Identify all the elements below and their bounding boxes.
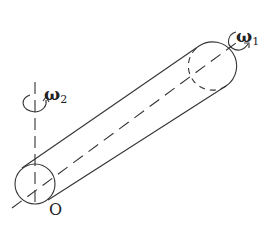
omega1-label: ω1 [236, 28, 259, 47]
cylinder-bottom-edge [48, 86, 226, 200]
cylinder-diagram [0, 0, 274, 228]
top-end-circle-visible [199, 42, 237, 86]
origin-label: O [49, 202, 62, 218]
cylinder-top-edge [22, 46, 199, 168]
cylinder-axis [12, 40, 240, 208]
omega2-label: ω2 [44, 86, 67, 105]
top-end-circle-hidden [188, 46, 226, 90]
